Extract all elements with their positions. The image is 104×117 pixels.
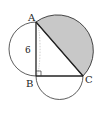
geometry-diagram: A 6 B C (0, 0, 104, 117)
label-ab-length: 6 (25, 45, 31, 55)
semicircle-bc (36, 76, 83, 99)
label-b: B (26, 78, 33, 89)
semicircle-ab (9, 22, 36, 76)
label-c: C (85, 74, 93, 85)
label-a: A (27, 12, 36, 23)
shaded-semicircle-ac (36, 15, 93, 76)
